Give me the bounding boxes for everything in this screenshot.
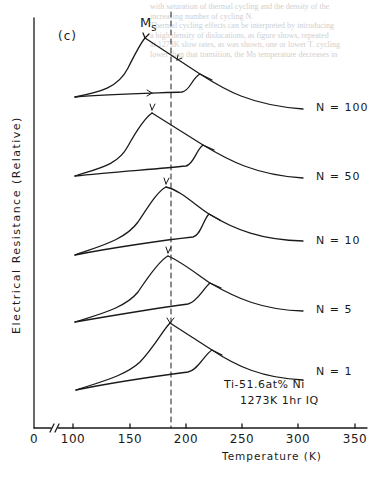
curve-label-n5: N = 5 [316, 303, 352, 316]
x-tick-300: 300 [286, 432, 310, 446]
x-axis-label: Temperature (K) [222, 450, 322, 462]
sample-composition: Ti-51.6at% Ni [224, 378, 305, 391]
curve-label-n100: N = 100 [316, 101, 368, 114]
curve-label-n50: N = 50 [316, 170, 360, 183]
x-tick-0: 0 [30, 432, 38, 446]
ms-label-main: M [140, 15, 151, 30]
sample-treatment: 1273K 1hr IQ [240, 394, 319, 407]
x-tick-100: 100 [61, 432, 85, 446]
ms-label: Ms [140, 15, 156, 33]
series-n5 [75, 247, 303, 322]
ms-label-sub: s [151, 22, 156, 33]
curve-label-n10: N = 10 [316, 234, 360, 247]
series-n50 [75, 104, 303, 178]
series-n10 [75, 178, 303, 255]
x-tick-250: 250 [230, 432, 254, 446]
x-tick-350: 350 [343, 432, 367, 446]
curve-label-n1: N = 1 [316, 365, 352, 378]
axis-break-mark [50, 424, 59, 432]
y-axis-label: Electrical Resistance (Relative) [10, 116, 23, 334]
x-tick-200: 200 [174, 432, 198, 446]
panel-label: (c) [58, 29, 77, 43]
x-tick-150: 150 [118, 432, 142, 446]
